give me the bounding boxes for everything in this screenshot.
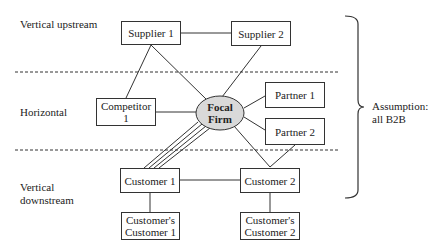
layer-downstream-label: Vertical downstream xyxy=(20,181,80,207)
node-competitor-1: Competitor 1 xyxy=(96,98,156,126)
brace-icon xyxy=(345,16,364,198)
node-customer-2: Customer 2 xyxy=(240,168,300,193)
node-customer-1: Customer 1 xyxy=(120,168,180,193)
node-partner-2: Partner 2 xyxy=(265,118,325,145)
node-partner-1: Partner 1 xyxy=(265,82,325,108)
assumption-annotation: Assumption: all B2B xyxy=(372,100,440,126)
node-focal-firm: Focal Firm xyxy=(202,101,238,125)
node-customers-customer-2: Customer's Customer 2 xyxy=(240,212,300,240)
node-supplier-1: Supplier 1 xyxy=(121,21,181,45)
layer-upstream-label: Vertical upstream xyxy=(20,18,97,31)
layer-horizontal-label: Horizontal xyxy=(20,106,67,119)
node-customers-customer-1: Customer's Customer 1 xyxy=(121,212,180,240)
node-supplier-2: Supplier 2 xyxy=(231,21,291,46)
